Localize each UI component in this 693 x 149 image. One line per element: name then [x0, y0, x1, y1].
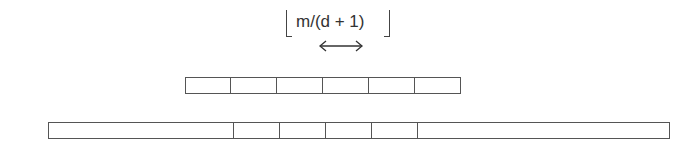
bottom-array-row: [48, 122, 670, 139]
top-array-row: [185, 77, 461, 94]
array-cell: [414, 77, 462, 94]
array-cell: [185, 77, 231, 94]
array-cell: [233, 122, 281, 139]
floor-expression-label: m/(d + 1): [284, 6, 394, 38]
floor-right-bracket: [384, 10, 390, 37]
array-cell: [371, 122, 419, 139]
array-cell: [276, 77, 324, 94]
expression-text: m/(d + 1): [296, 12, 365, 32]
array-cell: [230, 77, 278, 94]
floor-left-bracket: [286, 10, 292, 37]
double-arrow-icon: [318, 40, 364, 52]
array-cell: [322, 77, 370, 94]
array-cell: [417, 122, 671, 139]
array-cell: [325, 122, 373, 139]
array-cell: [279, 122, 327, 139]
array-cell: [368, 77, 416, 94]
array-cell: [48, 122, 234, 139]
